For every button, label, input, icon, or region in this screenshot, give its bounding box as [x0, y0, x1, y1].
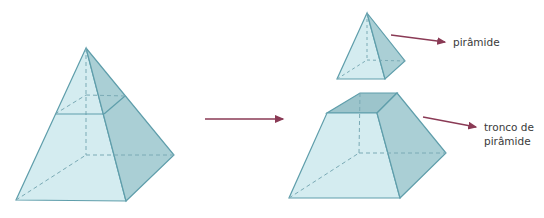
pyramid-pointer-arrow	[391, 35, 445, 42]
small-pyramid	[337, 13, 405, 79]
frustum-label-line2: pirâmide	[484, 134, 531, 148]
diagram-canvas	[0, 0, 544, 218]
frustum-label-line1: tronco de	[484, 120, 534, 134]
pyramid-label: pirâmide	[453, 35, 500, 49]
frustum-pointer-arrow	[423, 117, 476, 127]
large-pyramid	[16, 48, 174, 201]
frustum	[289, 93, 446, 198]
